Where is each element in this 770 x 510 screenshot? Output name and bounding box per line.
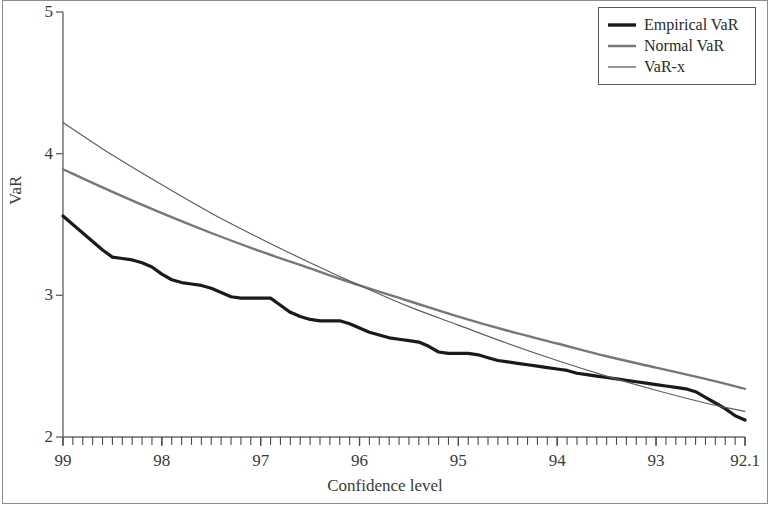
legend-line-icon — [607, 61, 637, 73]
x-tick-label: 96 — [351, 451, 368, 471]
y-axis-title: VaR — [6, 176, 26, 205]
x-tick-label: 94 — [549, 451, 566, 471]
x-axis-title: Confidence level — [0, 476, 770, 496]
legend-line-icon — [607, 40, 637, 52]
x-tick-label: 97 — [252, 451, 269, 471]
legend-item-label: VaR-x — [644, 58, 685, 76]
legend-item: VaR-x — [607, 56, 747, 77]
y-tick-label: 5 — [23, 2, 53, 22]
x-tick-label: 92.1 — [730, 451, 760, 471]
y-tick-label: 4 — [23, 144, 53, 164]
var-confidence-level-chart: 2345 9998979695949392.1 VaR Confidence l… — [0, 0, 770, 510]
x-tick-label: 99 — [55, 451, 72, 471]
legend-item: Normal VaR — [607, 35, 747, 56]
x-tick-label: 93 — [648, 451, 665, 471]
data-series-layer — [63, 123, 745, 421]
y-tick-label: 2 — [23, 427, 53, 447]
x-tick-label: 95 — [450, 451, 467, 471]
y-tick-label: 3 — [23, 285, 53, 305]
legend-item-label: Normal VaR — [644, 37, 724, 55]
x-tick-label: 98 — [153, 451, 170, 471]
chart-legend: Empirical VaR Normal VaR VaR-x — [598, 7, 756, 85]
legend-item: Empirical VaR — [607, 14, 747, 35]
legend-line-icon — [607, 19, 637, 31]
legend-item-label: Empirical VaR — [644, 16, 738, 34]
